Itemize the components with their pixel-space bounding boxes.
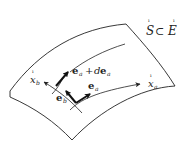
svg-text:ı: ı [173,17,175,23]
surface-top-edge [10,24,126,91]
svg-text:a: a [107,70,111,77]
svg-text:⊂: ⊂ [155,25,164,38]
svg-text:b: b [63,97,67,104]
svg-text:ı: ı [148,17,150,23]
svg-text:E: E [167,24,177,38]
label-e-a: e a [88,80,99,92]
vector-e-b [66,91,76,103]
svg-text:e: e [100,65,106,76]
svg-text:b: b [36,79,40,86]
coordinate-curve-x-a [70,84,140,110]
label-e-b: e b [56,92,67,104]
surface-diagram: ı S ⊂ ı E ı x b ı x a e a + d e a e a e … [0,0,190,154]
label-e-a-plus-de-a: e a + d e a [72,65,111,77]
svg-text:S: S [146,24,154,38]
svg-text:a: a [154,83,158,90]
svg-text:a: a [95,85,99,92]
label-x-a: ı x a [148,72,158,90]
title-label: ı S ⊂ ı E [146,17,177,38]
label-x-b: ı x b [30,68,40,86]
svg-text:a: a [79,70,83,77]
svg-text:e: e [88,80,94,91]
svg-text:e: e [72,65,78,76]
vector-e-a [76,94,90,103]
svg-text:+: + [85,65,93,76]
surface-bottom-right-edge [72,86,175,140]
vector-e-a-plus-de-a [56,72,68,86]
svg-text:e: e [56,92,62,103]
